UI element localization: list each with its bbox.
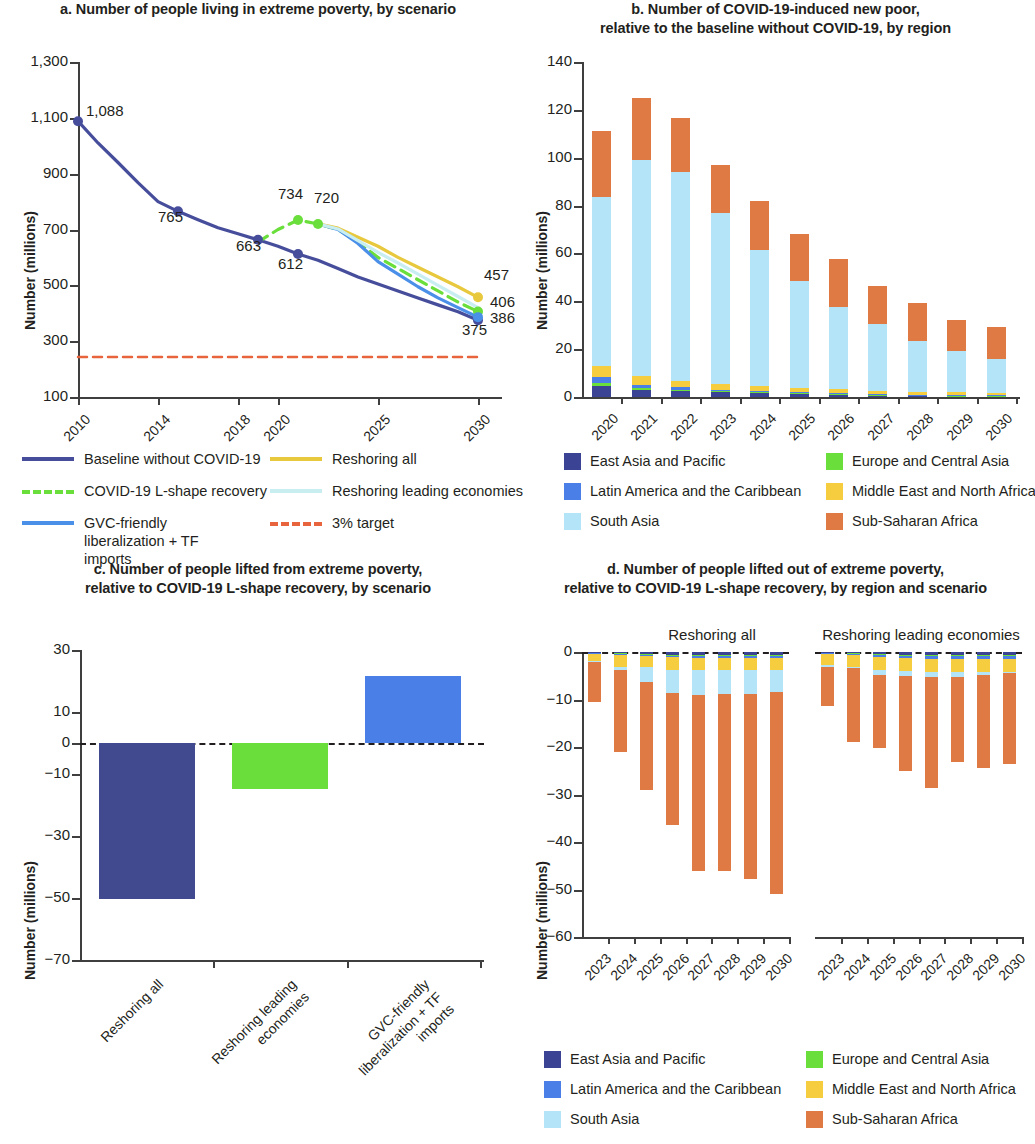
panel-b-xtick-mark: [977, 397, 979, 404]
panel-a-tick-mark: [70, 174, 78, 176]
panel-b-bar-segment: [790, 392, 809, 393]
panel-c-ytick: 10: [0, 702, 70, 719]
panel-b-bar-segment: [711, 390, 730, 392]
panel-d-bar-segment: [770, 670, 783, 692]
panel-b-tick-mark: [574, 349, 582, 351]
panel-d-zero-line: [582, 652, 789, 654]
panel-c-tick-mark: [72, 960, 80, 962]
panel-b-bar-segment: [908, 341, 927, 391]
panel-d-tick-mark: [574, 652, 582, 654]
legend-line-swatch: [270, 522, 322, 526]
panel-d-ytick: −40: [516, 832, 572, 849]
panel-d-bar-segment: [640, 656, 653, 667]
panel-a-legend-line-gvc-friendly-liberalization-tf-imports: [22, 514, 74, 531]
panel-d-bar-segment: [977, 659, 990, 672]
panel-a-legend-label: Baseline without COVID-19: [84, 450, 261, 468]
panel-b-bar-segment: [829, 307, 848, 390]
panel-d-zero-line: [815, 652, 1022, 654]
panel-d: d. Number of people lifted out of extrem…: [516, 560, 1035, 1144]
panel-a-legend-line-baseline-without-covid-19: [22, 450, 74, 467]
panel-b-bar-segment: [987, 393, 1006, 395]
panel-a-legend-label: Reshoring leading economies: [332, 482, 523, 500]
panel-b-legend-item: East Asia and Pacific: [564, 452, 725, 470]
panel-d-bar-segment: [744, 658, 757, 670]
panel-a-legend-line-covid-19-l-shape-recovery: [22, 482, 74, 499]
panel-a-legend-label: COVID-19 L-shape recovery: [84, 482, 267, 500]
panel-b-ytick: 40: [516, 291, 572, 308]
panel-b: b. Number of COVID-19-induced new poor, …: [516, 0, 1035, 556]
panel-b-tick-mark: [574, 158, 582, 160]
panel-d-ytick: −60: [516, 927, 572, 944]
panel-d-xtick-mark: [893, 937, 895, 944]
panel-b-bar-segment: [987, 327, 1006, 359]
panel-b-xtick-mark: [779, 397, 781, 404]
panel-d-xtick-mark: [737, 937, 739, 944]
panel-d-legend-label: Latin America and the Caribbean: [570, 1080, 781, 1098]
panel-a-legend-line-reshoring-leading-economies: [270, 482, 322, 499]
panel-d-xtick-mark: [970, 937, 972, 944]
panel-d-bar-segment: [744, 694, 757, 879]
panel-d-bar-segment: [640, 682, 653, 790]
panel-b-legend-item: Europe and Central Asia: [826, 452, 1009, 470]
panel-b-bar-segment: [750, 393, 769, 397]
panel-b-bar-segment: [868, 391, 887, 394]
legend-line-swatch: [22, 457, 74, 461]
panel-a-marker: [73, 116, 83, 126]
panel-b-legend-item: South Asia: [564, 512, 659, 530]
panel-b-legend-swatch-europe-and-central-asia: [826, 453, 843, 470]
panel-d-bar-segment: [847, 668, 860, 742]
panel-b-title-line2: relative to the baseline without COVID-1…: [516, 19, 1035, 38]
panel-d-plot: [582, 652, 1022, 937]
panel-b-ytick: 100: [516, 148, 572, 165]
panel-b-ylabel: Number (millions): [534, 211, 550, 330]
panel-b-bar-segment: [947, 351, 966, 392]
panel-d-ytick: −30: [516, 785, 572, 802]
panel-d-bar-segment: [977, 675, 990, 768]
panel-b-bar-segment: [711, 213, 730, 385]
panel-b-bar-segment: [632, 385, 651, 389]
panel-b-bar-segment: [671, 172, 690, 381]
panel-b-bar-segment: [868, 395, 887, 396]
panel-a-legend-line-reshoring-all: [270, 450, 322, 467]
panel-c-tick-mark: [72, 774, 80, 776]
panel-a-legend-item: Reshoring leading economies: [270, 482, 523, 500]
panel-a-tick-mark: [70, 62, 78, 64]
panel-a-ytick: 1,300: [0, 52, 68, 69]
panel-a-legend-item: COVID-19 L-shape recovery: [22, 482, 267, 500]
panel-b-ytick: 120: [516, 100, 572, 117]
panel-a-legend-label: Reshoring all: [332, 450, 417, 468]
panel-d-bar-segment: [951, 659, 964, 672]
panel-c-tick-mark: [72, 898, 80, 900]
panel-b-legend-item: Middle East and North Africa: [826, 482, 1035, 500]
panel-d-bar-segment: [821, 654, 834, 665]
panel-c-xtick-mark: [480, 960, 482, 968]
panel-a-line-reshoring-all: [318, 224, 478, 297]
panel-b-ytick: 20: [516, 339, 572, 356]
panel-b-bar-segment: [711, 392, 730, 397]
panel-a-plot: [78, 62, 498, 397]
panel-d-bar-segment: [718, 658, 731, 670]
panel-a-ytick: 1,100: [0, 108, 68, 125]
panel-b-bar-segment: [671, 381, 690, 387]
panel-b-bar-segment: [592, 377, 611, 383]
panel-a-ytick: 700: [0, 220, 68, 237]
panel-a-legend-item: 3% target: [270, 514, 394, 532]
panel-b-bar-segment: [632, 98, 651, 160]
panel-b-xtick-mark: [621, 397, 623, 404]
panel-b-bar-segment: [868, 394, 887, 395]
panel-a-point-label: 734: [278, 185, 303, 202]
panel-d-bar-segment: [666, 670, 679, 692]
panel-d-bar-segment: [718, 694, 731, 871]
panel-b-bar-segment: [592, 386, 611, 397]
panel-c-ytick: −30: [0, 826, 70, 843]
panel-d-bar-segment: [640, 667, 653, 682]
panel-b-bar-segment: [632, 388, 651, 389]
panel-c-title-line2: relative to COVID-19 L-shape recovery, b…: [0, 579, 516, 598]
panel-d-bar-segment: [1003, 673, 1016, 764]
panel-a-point-label: 386: [490, 309, 515, 326]
panel-c-bar: [99, 743, 195, 899]
panel-b-legend-label: Latin America and the Caribbean: [590, 482, 801, 500]
panel-d-legend-item: Latin America and the Caribbean: [544, 1080, 781, 1098]
panel-d-ytick: −20: [516, 737, 572, 754]
panel-d-xtick-mark: [841, 937, 843, 944]
